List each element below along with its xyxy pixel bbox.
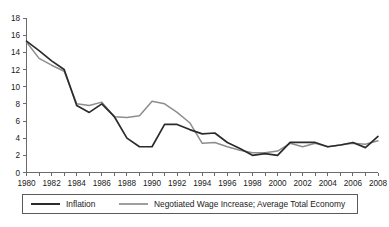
x-tick-label: 2006 xyxy=(344,179,363,188)
x-tick-label: 1984 xyxy=(68,179,87,188)
chart-canvas: 024681012141618 198019821984198619881990… xyxy=(0,0,389,227)
x-tick-label: 1994 xyxy=(193,179,212,188)
x-tick-label: 2004 xyxy=(319,179,338,188)
x-axis-tick-labels: 1980198219841986198819901992199419961998… xyxy=(17,179,387,188)
y-tick-label: 0 xyxy=(15,169,20,178)
x-tick-label: 1998 xyxy=(243,179,262,188)
y-tick-label: 16 xyxy=(11,31,21,40)
y-tick-label: 14 xyxy=(11,48,21,57)
x-tick-label: 2008 xyxy=(369,179,388,188)
x-tick-label: 1980 xyxy=(17,179,36,188)
line-chart-figure: 024681012141618 198019821984198619881990… xyxy=(0,0,389,227)
chart-background xyxy=(0,0,389,227)
x-tick-label: 2002 xyxy=(294,179,313,188)
x-tick-label: 1990 xyxy=(143,179,162,188)
legend-item-negotiated-wage[interactable]: Negotiated Wage Increase; Average Total … xyxy=(119,199,346,209)
x-tick-label: 1986 xyxy=(93,179,112,188)
x-tick-label: 1988 xyxy=(118,179,137,188)
y-tick-label: 12 xyxy=(11,66,21,75)
y-tick-label: 18 xyxy=(11,14,21,23)
x-tick-label: 2000 xyxy=(268,179,287,188)
chart-legend: Inflation Negotiated Wage Increase; Aver… xyxy=(23,195,358,214)
y-tick-label: 6 xyxy=(15,117,20,126)
y-tick-label: 4 xyxy=(15,134,20,143)
x-tick-label: 1992 xyxy=(168,179,187,188)
legend-label-negotiated-wage: Negotiated Wage Increase; Average Total … xyxy=(154,199,346,209)
y-tick-label: 10 xyxy=(11,83,21,92)
y-tick-label: 8 xyxy=(15,100,20,109)
x-tick-label: 1996 xyxy=(218,179,237,188)
y-tick-label: 2 xyxy=(15,151,20,160)
legend-label-inflation: Inflation xyxy=(66,199,96,209)
x-tick-label: 1982 xyxy=(42,179,61,188)
